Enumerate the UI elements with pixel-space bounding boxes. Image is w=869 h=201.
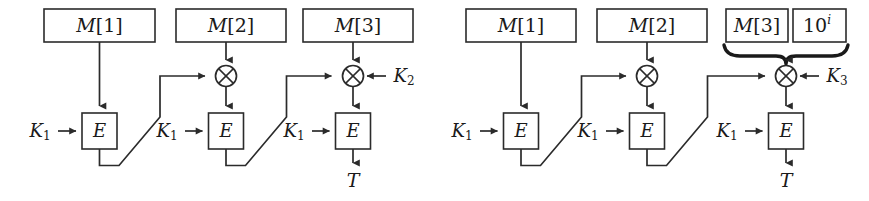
key-label-k1-stage1: K1 bbox=[28, 120, 50, 143]
output-tag-label-left: T bbox=[347, 169, 361, 191]
key-label-k2: K2 bbox=[392, 65, 414, 88]
output-tag-label-right: T bbox=[780, 169, 794, 191]
message-box-label-m3-right: M[3] bbox=[733, 14, 780, 36]
cipher-box-label-e3-right: E bbox=[778, 120, 792, 141]
cbc-mac-diagram: M[1] E K1 M[2] bbox=[0, 0, 869, 201]
stage-right-3: M[3] 10i K3 E bbox=[715, 9, 848, 191]
key-label-k1-stage1-right: K1 bbox=[450, 120, 472, 143]
message-box-label-m1: M[1] bbox=[75, 14, 122, 36]
key-label-k1-stage2-right: K1 bbox=[576, 120, 598, 143]
cipher-box-label-e2: E bbox=[218, 120, 232, 141]
message-box-label-m1-right: M[1] bbox=[497, 14, 544, 36]
message-box-label-m3: M[3] bbox=[334, 14, 381, 36]
brace-icon bbox=[724, 45, 848, 64]
stage-left-3: M[3] K2 E K1 bbox=[282, 9, 414, 191]
pad-box-label-10i: 10i bbox=[803, 12, 831, 36]
key-label-k3: K3 bbox=[825, 65, 847, 88]
figure-root: M[1] E K1 M[2] bbox=[0, 0, 869, 201]
message-box-label-m2: M[2] bbox=[207, 14, 254, 36]
panel-right: M[1] E K1 M[2] bbox=[450, 9, 848, 191]
key-label-k1-stage3: K1 bbox=[282, 120, 304, 143]
key-label-k1-stage3-right: K1 bbox=[715, 120, 737, 143]
cipher-box-label-e1: E bbox=[92, 120, 106, 141]
cipher-box-label-e2-right: E bbox=[639, 120, 653, 141]
key-label-k1-stage2: K1 bbox=[155, 120, 177, 143]
message-box-label-m2-right: M[2] bbox=[628, 14, 675, 36]
panel-left: M[1] E K1 M[2] bbox=[28, 9, 414, 191]
cipher-box-label-e3: E bbox=[345, 120, 359, 141]
cipher-box-label-e1-right: E bbox=[513, 120, 527, 141]
